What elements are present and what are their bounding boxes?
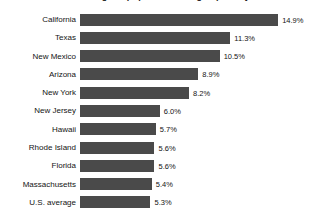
bar-track <box>80 87 189 99</box>
bar-category-label: Florida <box>0 160 76 171</box>
bar-value-label: 5.4% <box>156 179 173 190</box>
bar-track <box>80 160 154 172</box>
chart-bar-row: New Jersey6.0% <box>0 104 312 122</box>
bar <box>80 178 152 190</box>
bar-value-label: 5.7% <box>160 124 177 135</box>
bar-category-label: Hawaii <box>0 124 76 135</box>
bar-value-label: 5.6% <box>158 143 175 154</box>
chart-bar-row: New York8.2% <box>0 86 312 104</box>
bar-category-label: Massachusetts <box>0 179 76 190</box>
bar-category-label: Texas <box>0 32 76 43</box>
bar-category-label: California <box>0 14 76 25</box>
bar-category-label: Rhode Island <box>0 142 76 153</box>
bar-track <box>80 105 160 117</box>
bar-category-label: U.S. average <box>0 197 76 208</box>
bar-value-label: 10.5% <box>224 51 245 62</box>
bar <box>80 105 160 117</box>
bar <box>80 160 154 172</box>
chart-bar-row: Massachusetts5.4% <box>0 178 312 196</box>
chart-bar-row: California14.9% <box>0 13 312 31</box>
bar-category-label: New Jersey <box>0 105 76 116</box>
bar <box>80 68 198 80</box>
chart-bar-row: Hawaii5.7% <box>0 123 312 141</box>
bar-track <box>80 178 152 190</box>
bar <box>80 196 150 208</box>
chart-bar-row: Texas11.3% <box>0 31 312 49</box>
chart-title: Percentage of population living in pover… <box>0 0 312 1</box>
bar <box>80 50 220 62</box>
chart-bar-row: Florida5.6% <box>0 159 312 177</box>
bar-track <box>80 14 278 26</box>
bar-value-label: 8.9% <box>202 69 219 80</box>
chart-bar-row: U.S. average5.3% <box>0 196 312 214</box>
bar-track <box>80 50 220 62</box>
bar-chart: Percentage of population living in pover… <box>0 0 312 222</box>
chart-plot-area: California14.9%Texas11.3%New Mexico10.5%… <box>0 13 312 214</box>
bar-value-label: 8.2% <box>193 88 210 99</box>
bar-track <box>80 68 198 80</box>
bar <box>80 14 278 26</box>
bar-value-label: 11.3% <box>234 33 255 44</box>
bar-track <box>80 32 230 44</box>
bar-category-label: New Mexico <box>0 51 76 62</box>
bar-category-label: Arizona <box>0 69 76 80</box>
bar-value-label: 14.9% <box>282 15 303 26</box>
bar-category-label: New York <box>0 87 76 98</box>
bar-track <box>80 196 150 208</box>
bar-track <box>80 142 154 154</box>
bar <box>80 87 189 99</box>
bar-value-label: 5.6% <box>158 161 175 172</box>
bar <box>80 142 154 154</box>
chart-bar-row: Rhode Island5.6% <box>0 141 312 159</box>
bar <box>80 123 156 135</box>
chart-bar-row: Arizona8.9% <box>0 68 312 86</box>
chart-bar-row: New Mexico10.5% <box>0 50 312 68</box>
bar-track <box>80 123 156 135</box>
bar-value-label: 6.0% <box>164 106 181 117</box>
bar-value-label: 5.3% <box>154 197 171 208</box>
bar <box>80 32 230 44</box>
